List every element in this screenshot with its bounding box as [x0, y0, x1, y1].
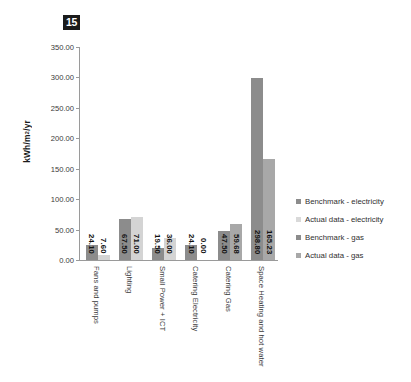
bar-value-label: 24.10: [87, 234, 96, 254]
plot-area: 0.0050.00100.00150.00200.00250.00300.003…: [79, 47, 278, 261]
y-tick-label: 0.00: [59, 256, 74, 265]
legend-item[interactable]: Actual data - electricity: [296, 210, 408, 228]
legend-item[interactable]: Actual data - gas: [296, 246, 408, 264]
bar-value-label: 59.68: [232, 234, 241, 254]
y-tick-mark: [76, 47, 79, 48]
bar-group: 19.5036.00: [152, 47, 176, 260]
bar-value-label: 0.00: [199, 238, 208, 254]
legend-swatch: [296, 199, 301, 204]
bar-group: 67.5071.00: [119, 47, 143, 260]
y-tick-label: 100.00: [51, 195, 74, 204]
bar[interactable]: [98, 255, 110, 260]
bar-value-label: 71.00: [132, 234, 141, 254]
legend-label: Actual data - electricity: [305, 215, 383, 224]
x-axis-category-label: Fans and pumps: [92, 266, 101, 324]
legend-swatch: [296, 253, 301, 258]
chart-figure: 15 kWh/m2/yr 0.0050.00100.00150.00200.00…: [0, 0, 411, 382]
x-axis-category-label: Catering Electricity: [191, 266, 200, 331]
bar-value-label: 36.00: [165, 234, 174, 254]
legend-label: Benchmark - electricity: [305, 197, 384, 206]
legend-item[interactable]: Benchmark - electricity: [296, 192, 408, 210]
y-tick-mark: [76, 108, 79, 109]
x-axis-category-label: Lighting: [125, 266, 134, 293]
y-tick-mark: [76, 138, 79, 139]
legend-swatch: [296, 235, 301, 240]
y-tick-mark: [76, 199, 79, 200]
bar-value-label: 24.10: [187, 234, 196, 254]
y-tick-mark: [76, 260, 79, 261]
y-tick-label: 50.00: [55, 225, 74, 234]
y-tick-mark: [76, 169, 79, 170]
bar-group: 298.80165.23: [251, 47, 275, 260]
bar-value-label: 47.50: [220, 234, 229, 254]
bar-value-label: 19.50: [153, 234, 162, 254]
x-axis-category-label: Small Power + ICT: [158, 266, 167, 331]
y-tick-label: 250.00: [51, 103, 74, 112]
y-axis-title: kWh/m2/yr: [22, 120, 36, 163]
page-number-badge: 15: [63, 15, 80, 30]
y-tick-mark: [76, 230, 79, 231]
legend-swatch: [296, 217, 301, 222]
y-tick-label: 200.00: [51, 134, 74, 143]
y-axis-line: [79, 47, 80, 261]
bar-group: 24.100.00: [185, 47, 209, 260]
chart-legend: Benchmark - electricityActual data - ele…: [296, 192, 408, 264]
bar-group: 47.5059.68: [218, 47, 242, 260]
bar-value-label: 298.80: [253, 230, 262, 254]
bar-value-label: 165.23: [265, 230, 274, 254]
bar-value-label: 7.60: [99, 238, 108, 254]
x-axis-line: [79, 260, 278, 261]
legend-label: Actual data - gas: [305, 251, 364, 260]
bar-value-label: 67.50: [120, 234, 129, 254]
y-tick-label: 350.00: [51, 43, 74, 52]
x-axis-category-label: Catering Gas: [224, 266, 233, 312]
y-tick-label: 300.00: [51, 73, 74, 82]
x-axis-category-label: Space Heating and hot water: [257, 266, 266, 367]
y-tick-label: 150.00: [51, 164, 74, 173]
legend-label: Benchmark - gas: [305, 233, 364, 242]
y-tick-mark: [76, 77, 79, 78]
legend-item[interactable]: Benchmark - gas: [296, 228, 408, 246]
bar-group: 24.107.60: [86, 47, 110, 260]
